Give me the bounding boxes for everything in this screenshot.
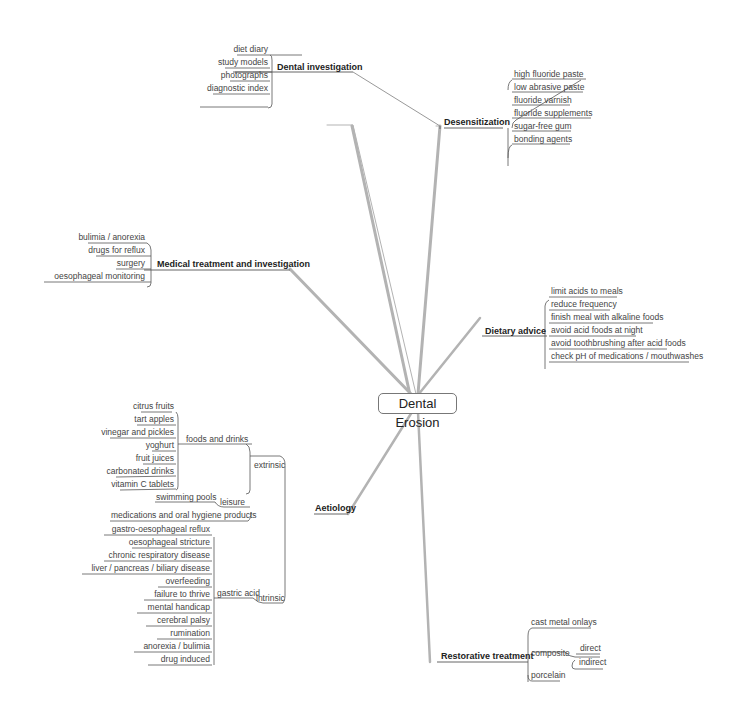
leaf-sugar-free-gum[interactable]: sugar-free gum xyxy=(514,121,572,131)
leaf-liver-pancreas[interactable]: liver / pancreas / biliary disease xyxy=(60,563,210,573)
leaf-fruit-juices[interactable]: fruit juices xyxy=(100,453,174,463)
leaf-reduce-frequency[interactable]: reduce frequency xyxy=(551,299,617,309)
leaf-photographs[interactable]: photographs xyxy=(210,70,268,80)
leaf-tart-apples[interactable]: tart apples xyxy=(100,414,174,424)
leaf-direct[interactable]: direct xyxy=(580,643,601,653)
node-extrinsic[interactable]: extrinsic xyxy=(254,460,285,470)
node-composite[interactable]: composite xyxy=(531,648,570,658)
leaf-limit-acids[interactable]: limit acids to meals xyxy=(551,286,623,296)
branch-dietary-advice[interactable]: Dietary advice xyxy=(485,326,546,336)
leaf-vinegar-pickles[interactable]: vinegar and pickles xyxy=(100,427,174,437)
node-intrinsic[interactable]: intrinsic xyxy=(256,593,285,603)
leaf-bonding-agents[interactable]: bonding agents xyxy=(514,134,572,144)
branch-aetiology[interactable]: Aetiology xyxy=(315,503,356,513)
leaf-vitamin-c[interactable]: vitamin C tablets xyxy=(100,479,174,489)
leaf-study-models[interactable]: study models xyxy=(205,57,268,67)
leaf-chronic-respiratory[interactable]: chronic respiratory disease xyxy=(60,550,210,560)
leaf-anorexia-bulimia[interactable]: anorexia / bulimia xyxy=(60,641,210,651)
leaf-drug-induced[interactable]: drug induced xyxy=(60,654,210,664)
leaf-surgery[interactable]: surgery xyxy=(60,258,145,268)
branch-desensitization[interactable]: Desensitization xyxy=(444,117,510,127)
leaf-drugs-for-reflux[interactable]: drugs for reflux xyxy=(60,245,145,255)
leaf-finish-meal[interactable]: finish meal with alkaline foods xyxy=(551,312,663,322)
leaf-swimming-pools[interactable]: swimming pools xyxy=(156,492,216,502)
leaf-oesophageal-monitoring[interactable]: oesophageal monitoring xyxy=(20,271,145,281)
leaf-high-fluoride-paste[interactable]: high fluoride paste xyxy=(514,69,583,79)
leaf-citrus-fruits[interactable]: citrus fruits xyxy=(100,401,174,411)
node-foods-and-drinks[interactable]: foods and drinks xyxy=(186,434,248,444)
leaf-diet-diary[interactable]: diet diary xyxy=(220,44,268,54)
leaf-mental-handicap[interactable]: mental handicap xyxy=(60,602,210,612)
leaf-overfeeding[interactable]: overfeeding xyxy=(60,576,210,586)
leaf-failure-to-thrive[interactable]: failure to thrive xyxy=(60,589,210,599)
leaf-medications-oral-hygiene[interactable]: medications and oral hygiene products xyxy=(111,510,257,520)
branch-restorative-treatment[interactable]: Restorative treatment xyxy=(441,651,534,661)
leaf-diagnostic-index[interactable]: diagnostic index xyxy=(195,83,268,93)
leaf-avoid-toothbrushing[interactable]: avoid toothbrushing after acid foods xyxy=(551,338,686,348)
central-topic[interactable]: Dental Erosion xyxy=(378,393,457,414)
leaf-cerebral-palsy[interactable]: cerebral palsy xyxy=(60,615,210,625)
leaf-fluoride-varnish[interactable]: fluoride varnish xyxy=(514,95,572,105)
leaf-bulimia-anorexia[interactable]: bulimia / anorexia xyxy=(60,232,145,242)
leaf-avoid-night[interactable]: avoid acid foods at night xyxy=(551,325,643,335)
node-leisure[interactable]: leisure xyxy=(220,497,245,507)
leaf-fluoride-supplements[interactable]: fluoride supplements xyxy=(514,108,592,118)
node-gastric-acid[interactable]: gastric acid xyxy=(217,588,260,598)
branch-dental-investigation[interactable]: Dental investigation xyxy=(277,62,363,72)
leaf-oesophageal-stricture[interactable]: oesophageal stricture xyxy=(60,537,210,547)
leaf-cast-metal-onlays[interactable]: cast metal onlays xyxy=(531,617,597,627)
leaf-porcelain[interactable]: porcelain xyxy=(531,670,566,680)
leaf-gastro-reflux[interactable]: gastro-oesophageal reflux xyxy=(60,524,210,534)
branch-medical-treatment[interactable]: Medical treatment and investigation xyxy=(157,259,310,269)
leaf-yoghurt[interactable]: yoghurt xyxy=(100,440,174,450)
leaf-low-abrasive-paste[interactable]: low abrasive paste xyxy=(514,82,584,92)
leaf-check-ph[interactable]: check pH of medications / mouthwashes xyxy=(551,351,703,361)
leaf-rumination[interactable]: rumination xyxy=(60,628,210,638)
leaf-carbonated-drinks[interactable]: carbonated drinks xyxy=(100,466,174,476)
leaf-indirect[interactable]: indirect xyxy=(579,657,606,667)
